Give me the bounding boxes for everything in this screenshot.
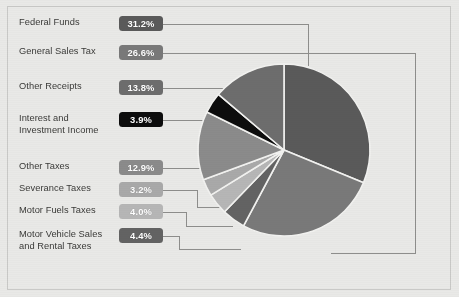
badge-other-receipts[interactable]: 13.8% [119,80,163,95]
badge-interest-income[interactable]: 3.9% [119,112,163,127]
legend: Federal Funds 31.2% General Sales Tax 26… [0,0,459,297]
badge-general-sales-tax[interactable]: 26.6% [119,45,163,60]
legend-label-general-sales-tax: General Sales Tax [19,46,123,58]
badge-federal-funds[interactable]: 31.2% [119,16,163,31]
legend-label-motor-vehicle-taxes: Motor Vehicle Sales and Rental Taxes [19,229,123,252]
legend-label-federal-funds: Federal Funds [19,17,123,29]
badge-severance-taxes[interactable]: 3.2% [119,182,163,197]
legend-label-interest-income: Interest and Investment Income [19,113,123,136]
legend-label-severance-taxes: Severance Taxes [19,183,123,195]
legend-label-other-receipts: Other Receipts [19,81,123,93]
badge-motor-fuels-taxes[interactable]: 4.0% [119,204,163,219]
badge-other-taxes[interactable]: 12.9% [119,160,163,175]
pie-chart-figure: Federal Funds 31.2% General Sales Tax 26… [0,0,459,297]
badge-motor-vehicle-taxes[interactable]: 4.4% [119,228,163,243]
legend-label-other-taxes: Other Taxes [19,161,123,173]
legend-label-motor-fuels-taxes: Motor Fuels Taxes [19,205,123,217]
